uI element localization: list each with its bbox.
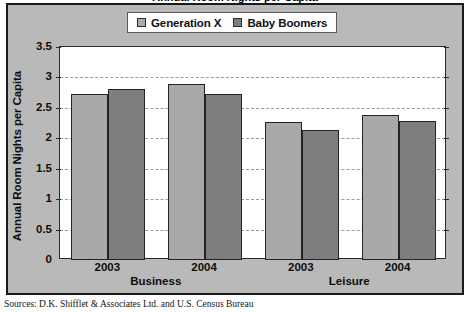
y-axis-tickmark-right xyxy=(444,230,449,231)
y-axis-tickmark xyxy=(56,230,61,231)
y-axis-tick-label: 1.5 xyxy=(36,162,52,174)
bar xyxy=(168,84,205,260)
x-axis-year-label: 2004 xyxy=(385,261,411,273)
y-axis-tick-label: 3.5 xyxy=(36,40,52,52)
y-axis-tickmark xyxy=(56,108,61,109)
y-axis-tickmark xyxy=(56,138,61,139)
y-axis-title-text: Annual Room Nights per Capita xyxy=(11,71,23,241)
y-axis-tickmark xyxy=(56,47,61,48)
chart-figure: Annual Room Nights per Capita Generation… xyxy=(0,0,470,312)
plot-area xyxy=(59,46,446,259)
y-axis-tickmark xyxy=(56,77,61,78)
x-axis-group-label: Leisure xyxy=(329,275,370,287)
source-note: Sources: D.K. Shifflet & Associates Ltd.… xyxy=(4,299,470,312)
y-axis-tick-label: 2 xyxy=(46,131,52,143)
bar xyxy=(399,121,436,260)
y-axis-tickmark-right xyxy=(444,108,449,109)
legend-swatch-generation-x xyxy=(137,18,146,27)
x-axis-tick-labels: 2003200420032004BusinessLeisure xyxy=(59,259,446,295)
y-axis-title: Annual Room Nights per Capita xyxy=(8,46,26,266)
y-axis-tickmark xyxy=(56,199,61,200)
bar-series-group xyxy=(60,47,445,258)
bar xyxy=(205,94,242,260)
y-axis-tickmark-right xyxy=(444,47,449,48)
y-axis-tickmark-right xyxy=(444,169,449,170)
legend-swatch-baby-boomers xyxy=(233,18,242,27)
y-axis-tickmark-right xyxy=(444,138,449,139)
x-axis-year-label: 2003 xyxy=(288,261,314,273)
bar xyxy=(362,115,399,260)
legend-entry[interactable]: Generation X xyxy=(137,17,221,29)
y-axis-tickmark-right xyxy=(444,77,449,78)
x-axis-year-label: 2004 xyxy=(191,261,217,273)
y-axis-tick-label: 1 xyxy=(46,192,52,204)
y-axis-tick-labels: 00.511.522.533.5 xyxy=(26,0,56,292)
chart-legend: Generation XBaby Boomers xyxy=(127,12,337,33)
y-axis-tickmark-right xyxy=(444,199,449,200)
legend-entry[interactable]: Baby Boomers xyxy=(233,17,327,29)
bar xyxy=(71,94,108,260)
bar xyxy=(108,89,145,260)
bar xyxy=(265,122,302,260)
y-axis-tick-label: 2.5 xyxy=(36,101,52,113)
x-axis-group-label: Business xyxy=(130,275,181,287)
bar xyxy=(302,130,339,260)
y-axis-tick-label: 0.5 xyxy=(36,223,52,235)
x-axis-year-label: 2003 xyxy=(95,261,121,273)
legend-label: Generation X xyxy=(151,17,221,29)
y-axis-tickmark xyxy=(56,169,61,170)
legend-label: Baby Boomers xyxy=(247,17,327,29)
y-axis-tick-label: 3 xyxy=(46,70,52,82)
y-axis-tick-label: 0 xyxy=(46,253,52,265)
